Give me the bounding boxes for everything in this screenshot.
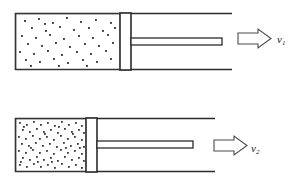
gas-chamber-top [16,14,121,70]
velocity-subscript-1: 1 [282,39,286,47]
velocity-arrow-bottom [214,136,247,155]
panel-bottom [15,118,247,172]
piston-head-top [120,13,131,70]
panel-top [15,13,271,70]
velocity-arrow-top [238,29,271,48]
piston-rod-top [131,38,222,45]
gas-chamber-bottom [16,119,87,172]
velocity-subscript-2: 2 [256,148,260,156]
piston-rod-bottom [97,141,193,148]
velocity-label-v1: v1 [277,34,285,45]
piston-cylinder-diagram [0,0,297,188]
velocity-label-v2: v2 [251,143,259,154]
piston-head-bottom [86,118,97,172]
